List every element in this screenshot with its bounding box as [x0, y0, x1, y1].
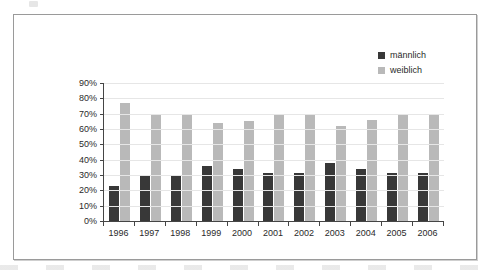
x-axis-label-2006: 2006	[412, 228, 443, 238]
y-axis-labels: 0%10%20%30%40%50%60%70%80%90%	[70, 83, 100, 221]
x-axis-label-2002: 2002	[288, 228, 319, 238]
x-axis-tick-mark	[196, 222, 197, 226]
x-axis-label-2003: 2003	[319, 228, 350, 238]
bar-group	[197, 83, 228, 221]
legend-swatch-maennlich	[378, 52, 385, 59]
x-axis-tick-mark	[350, 222, 351, 226]
bar-maennlich-2003[interactable]	[325, 163, 335, 221]
bar-group	[259, 83, 290, 221]
x-axis-label-1996: 1996	[103, 228, 134, 238]
y-axis-tick-label: 50%	[79, 139, 97, 149]
x-axis-label-2000: 2000	[227, 228, 258, 238]
y-axis-tick-label: 60%	[79, 124, 97, 134]
legend-swatch-weiblich	[378, 67, 385, 74]
bar-group	[166, 83, 197, 221]
scan-artifact-noise	[0, 265, 492, 270]
y-axis-tick-mark	[100, 98, 104, 99]
x-axis-tick-mark	[381, 222, 382, 226]
x-axis-tick-mark	[412, 222, 413, 226]
chart-legend: männlich weiblich	[378, 49, 478, 79]
gridline	[104, 114, 444, 115]
legend-label-weiblich: weiblich	[390, 65, 422, 76]
plot-wrapper: 0%10%20%30%40%50%60%70%80%90% 1996199719…	[70, 83, 450, 225]
y-axis-tick-mark	[100, 129, 104, 130]
bar-weiblich-1996[interactable]	[120, 103, 130, 221]
x-axis-tick-mark	[103, 222, 104, 226]
y-axis-tick-label: 70%	[79, 109, 97, 119]
bar-group	[351, 83, 382, 221]
y-axis-tick-mark	[100, 206, 104, 207]
x-axis-tick-marks	[103, 222, 443, 226]
bar-group	[382, 83, 413, 221]
bar-group	[413, 83, 444, 221]
bar-weiblich-2003[interactable]	[336, 126, 346, 221]
plot-area	[103, 83, 444, 222]
x-axis-tick-mark	[165, 222, 166, 226]
y-axis-tick-label: 30%	[79, 170, 97, 180]
gridline	[104, 190, 444, 191]
x-axis-label-2001: 2001	[258, 228, 289, 238]
bar-maennlich-2004[interactable]	[356, 169, 366, 221]
gridline	[104, 144, 444, 145]
y-axis-tick-mark	[100, 175, 104, 176]
y-axis-tick-label: 20%	[79, 185, 97, 195]
gridline	[104, 206, 444, 207]
y-axis-tick-label: 90%	[79, 78, 97, 88]
y-axis-tick-label: 0%	[84, 216, 97, 226]
bar-group	[289, 83, 320, 221]
bar-maennlich-2005[interactable]	[387, 173, 397, 221]
bar-maennlich-2001[interactable]	[263, 173, 273, 221]
y-axis-tick-mark	[100, 190, 104, 191]
x-axis-tick-mark	[227, 222, 228, 226]
x-axis-tick-mark	[134, 222, 135, 226]
gridline	[104, 83, 444, 84]
gridline	[104, 160, 444, 161]
bar-maennlich-2002[interactable]	[294, 173, 304, 221]
chart-frame: männlich weiblich 0%10%20%30%40%50%60%70…	[13, 14, 477, 260]
gridline	[104, 175, 444, 176]
gridline	[104, 129, 444, 130]
x-axis-tick-mark	[443, 222, 444, 226]
x-axis-label-2004: 2004	[350, 228, 381, 238]
y-axis-tick-label: 40%	[79, 155, 97, 165]
y-axis-tick-label: 10%	[79, 201, 97, 211]
x-axis-label-2005: 2005	[381, 228, 412, 238]
bar-maennlich-2000[interactable]	[233, 169, 243, 221]
bar-group	[104, 83, 135, 221]
x-axis-tick-mark	[258, 222, 259, 226]
y-axis-tick-mark	[100, 160, 104, 161]
legend-item-maennlich: männlich	[378, 49, 478, 62]
x-axis-label-1998: 1998	[165, 228, 196, 238]
bar-group	[135, 83, 166, 221]
x-axis-label-1999: 1999	[196, 228, 227, 238]
scan-artifact-speck	[29, 1, 38, 7]
bar-series-container	[104, 83, 444, 221]
y-axis-tick-mark	[100, 144, 104, 145]
x-axis-label-1997: 1997	[134, 228, 165, 238]
x-axis-tick-mark	[288, 222, 289, 226]
legend-label-maennlich: männlich	[390, 50, 426, 61]
bar-maennlich-2006[interactable]	[418, 173, 428, 221]
bar-group	[228, 83, 259, 221]
x-axis-tick-mark	[319, 222, 320, 226]
gridline	[104, 98, 444, 99]
bar-group	[320, 83, 351, 221]
bar-maennlich-1997[interactable]	[140, 175, 150, 221]
y-axis-tick-mark	[100, 83, 104, 84]
bar-maennlich-1998[interactable]	[171, 175, 181, 221]
y-axis-tick-mark	[100, 114, 104, 115]
y-axis-tick-label: 80%	[79, 93, 97, 103]
x-axis-labels: 1996199719981999200020012002200320042005…	[103, 228, 443, 238]
legend-item-weiblich: weiblich	[378, 64, 478, 77]
